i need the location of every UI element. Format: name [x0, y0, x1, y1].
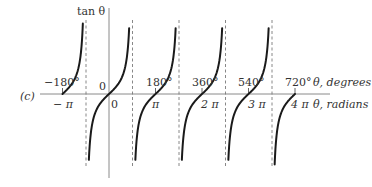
degree-tick-label: 720°: [285, 76, 312, 89]
degree-tick-label: −180°: [44, 76, 80, 89]
radian-tick-label: 0: [111, 98, 118, 111]
origin-label: 0: [99, 80, 106, 93]
radian-tick-label: 4 π: [290, 98, 309, 111]
degree-tick-label: 360°: [192, 76, 219, 89]
radian-tick-label: − π: [53, 98, 74, 111]
panel-label: (c): [20, 90, 35, 103]
radian-tick-label: 3 π: [248, 98, 266, 111]
x-axis-radians-label: θ, radians: [313, 98, 369, 111]
tangent-graph: tan θ (c) 0 −180° 180° 360° 540° 720° θ,…: [0, 0, 372, 187]
radian-tick-label: π: [151, 98, 160, 111]
degree-tick-label: 540°: [238, 76, 265, 89]
radian-tick-label: 2 π: [200, 98, 219, 111]
x-axis-degrees-label: θ, degrees: [313, 76, 371, 89]
degree-tick-label: 180°: [146, 76, 173, 89]
y-axis-label: tan θ: [77, 5, 106, 18]
